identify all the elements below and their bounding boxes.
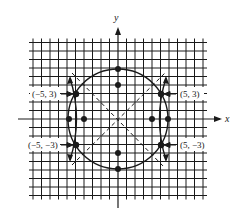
pointer-arrow-icon [164,143,170,148]
pointer-arrow-icon [67,143,73,148]
pointer-arrow-icon [164,92,170,97]
point-label-5-neg3: (5, −3) [180,140,205,150]
point-label-neg5-neg3: (−5, −3) [28,140,58,150]
point-label-neg5-3: (−5, 3) [32,89,57,99]
arrow-icon [163,76,169,84]
x-axis-arrow-icon [214,116,222,122]
y-axis-arrow-icon [115,27,121,35]
point-label-5-3: (5, 3) [180,89,200,99]
diagram-canvas: x y (−5, 3) (5, 3) (−5, −3) [0,0,245,218]
y-axis [115,27,121,208]
arrow-icon [67,76,73,84]
pointer-arrow-icon [67,92,73,97]
x-axis [18,116,222,122]
arrow-icon [67,154,73,162]
x-axis-label: x [224,113,230,124]
y-axis-label: y [113,12,119,23]
arrow-icon [163,154,169,162]
